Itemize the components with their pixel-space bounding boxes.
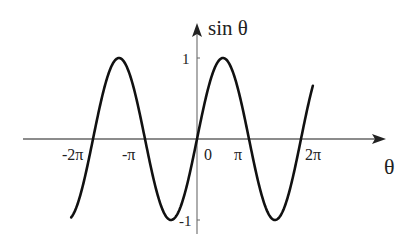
y-tick-label-1: 1 — [182, 51, 190, 67]
x-tick-label-negpi: -π — [122, 146, 135, 163]
x-tick-label-neg2pi: -2π — [62, 146, 83, 163]
graph-canvas: sin θ θ 1 -1 -2π -π 0 π 2π — [0, 0, 414, 237]
x-tick-label-zero: 0 — [204, 146, 212, 163]
y-tick-label-neg1: -1 — [179, 213, 192, 229]
x-tick-label-2pi: 2π — [305, 146, 321, 163]
y-axis-label: sin θ — [208, 16, 248, 40]
x-tick-label-pi: π — [234, 146, 242, 163]
sine-graph: sin θ θ 1 -1 -2π -π 0 π 2π — [0, 0, 414, 237]
x-axis-label: θ — [384, 154, 395, 179]
